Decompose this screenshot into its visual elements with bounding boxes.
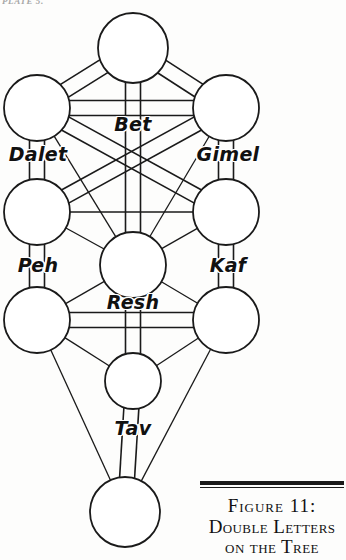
path-single xyxy=(156,338,200,367)
sephirah-gevurah xyxy=(4,179,70,245)
path-netzach-tiferet xyxy=(161,281,199,303)
path-single xyxy=(50,349,111,481)
path-keter-tiferet xyxy=(126,82,141,233)
path-hod-netzach xyxy=(69,313,194,328)
sephirah-binah xyxy=(4,75,70,141)
caption-line-3: on the Tree xyxy=(200,537,344,558)
path-rail-a xyxy=(61,130,194,203)
path-label-dalet: Dalet xyxy=(9,143,68,165)
path-hod-yesod xyxy=(64,337,110,366)
path-single xyxy=(161,228,198,249)
sephirah-chokhmah xyxy=(193,75,259,141)
path-label-kaf: Kaf xyxy=(210,254,247,276)
sephirah-netzach xyxy=(193,287,259,353)
path-label-peh: Peh xyxy=(18,254,59,276)
path-gevurah-tiferet xyxy=(65,227,105,249)
path-chesed-tiferet xyxy=(161,228,198,249)
path-single xyxy=(65,227,105,249)
sephirah-tiferet xyxy=(100,232,166,298)
path-netzach-yesod xyxy=(156,338,200,367)
sephirah-yesod xyxy=(105,353,161,409)
figure-page: PLATE 5. BetDaletGimelPehKafReshTav Figu… xyxy=(0,0,346,560)
caption-line-2: Double Letters xyxy=(200,517,344,538)
nodes-layer xyxy=(4,13,259,547)
path-single xyxy=(65,281,105,304)
path-rail-b xyxy=(69,130,202,203)
sephirah-malkuth xyxy=(90,477,160,547)
tree-of-life-diagram xyxy=(0,0,346,560)
caption-line-1: Figure 11: xyxy=(200,496,344,517)
path-label-resh: Resh xyxy=(107,291,160,313)
path-label-bet: Bet xyxy=(114,113,151,135)
path-single xyxy=(161,281,199,303)
sephirah-chesed xyxy=(193,179,259,245)
figure-caption: Figure 11: Double Letters on the Tree xyxy=(200,481,344,558)
path-keter-binah xyxy=(60,60,108,98)
sephirah-keter xyxy=(98,13,168,83)
path-label-tav: Tav xyxy=(115,417,152,439)
path-hod-tiferet xyxy=(65,281,105,304)
caption-text: Figure 11: Double Letters on the Tree xyxy=(200,496,344,558)
path-single xyxy=(64,337,110,366)
path-label-gimel: Gimel xyxy=(197,143,260,165)
path-keter-chokhmah xyxy=(158,60,204,97)
sephirah-hod xyxy=(4,287,70,353)
path-hod-malkuth xyxy=(50,349,111,481)
caption-rule-thin xyxy=(200,487,344,488)
